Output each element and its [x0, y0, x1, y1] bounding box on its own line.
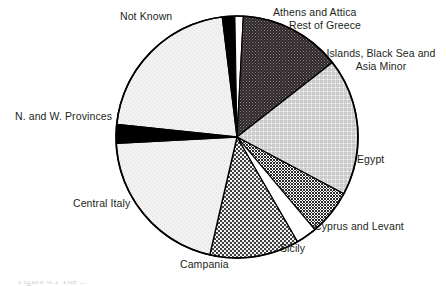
pie-label-cyprus-and-levant: Cyprus and Levant [314, 220, 404, 233]
figure-caption-text: Figure 4.1 The ... [18, 281, 248, 286]
pie-label-nw-provinces: N. and W. Provinces [15, 110, 112, 123]
pie-label-rest-of-greece: Rest of Greece [289, 19, 361, 32]
figure-caption-clipped: Figure 4.1 The ... [18, 281, 248, 286]
pie-chart-canvas [0, 0, 446, 286]
pie-label-central-italy: Central Italy [73, 197, 130, 210]
pie-chart-figure: Not Known Athens and Attica Rest of Gree… [0, 0, 446, 286]
pie-slice-not-known[interactable] [117, 17, 237, 137]
pie-label-not-known: Not Known [120, 10, 172, 23]
pie-label-campania: Campania [180, 258, 229, 271]
pie-label-egypt: Egypt [357, 153, 384, 166]
pie-label-sicily: Sicily [280, 242, 305, 255]
pie-label-islands-black-sea: Islands, Black Sea and Asia Minor [322, 47, 440, 73]
pie-label-athens-and-attica: Athens and Attica [273, 6, 356, 19]
